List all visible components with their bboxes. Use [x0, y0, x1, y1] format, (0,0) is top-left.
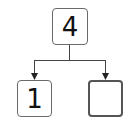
- part-value-left: 1: [26, 84, 43, 114]
- left-arrowhead: [31, 73, 38, 80]
- part-box-left: 1: [17, 80, 52, 117]
- whole-box: 4: [52, 8, 88, 45]
- whole-value: 4: [62, 12, 79, 42]
- part-box-right-empty[interactable]: [88, 80, 123, 117]
- right-arrowhead: [102, 73, 109, 80]
